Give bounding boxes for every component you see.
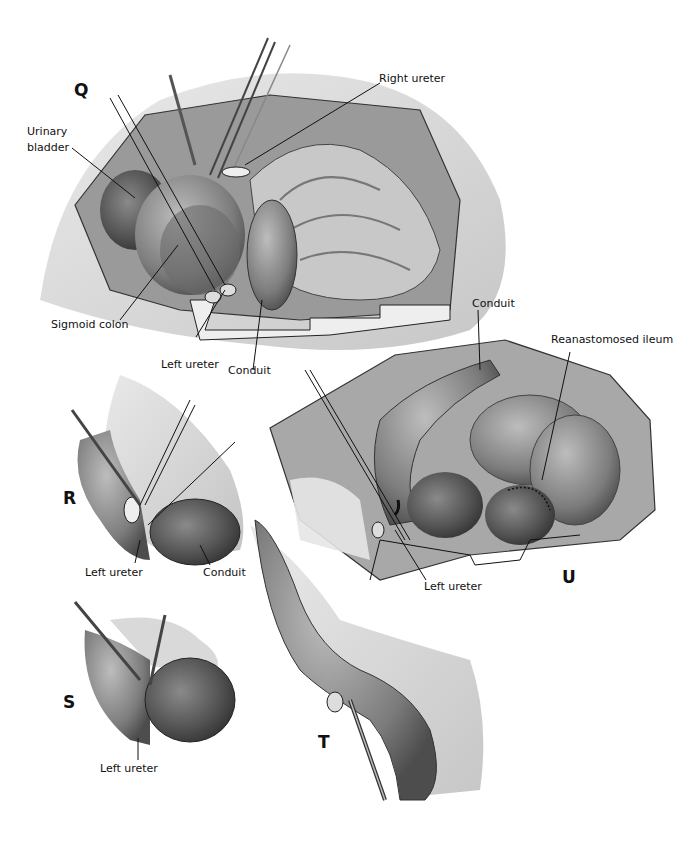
label-left-ureter-u: Left ureter [424,580,482,593]
label-urinary-bladder-line1: Urinary [27,125,67,138]
surgical-illustration: Q R S T U Urinary bladder Right ureter S… [0,0,695,849]
panel-r-drawing [72,375,243,565]
panel-letter-t: T [318,732,330,752]
panel-letter-r: R [63,488,76,508]
label-sigmoid-colon: Sigmoid colon [51,318,129,331]
label-urinary-bladder-line2: bladder [27,141,69,154]
label-reanastomosed-ileum: Reanastomosed ileum [551,333,673,346]
label-left-ureter-s: Left ureter [100,762,158,775]
panel-letter-u: U [562,567,576,587]
panel-letter-q: Q [74,80,88,100]
panel-s-drawing [75,602,235,745]
label-right-ureter: Right ureter [379,72,445,85]
label-conduit-u: Conduit [472,297,515,310]
label-left-ureter-r: Left ureter [85,566,143,579]
illustration-drawings [0,0,695,849]
panel-letter-s: S [63,692,75,712]
label-left-ureter-q: Left ureter [161,358,219,371]
label-conduit-q: Conduit [228,364,271,377]
panel-u-drawing [270,340,655,580]
label-conduit-r: Conduit [203,566,246,579]
